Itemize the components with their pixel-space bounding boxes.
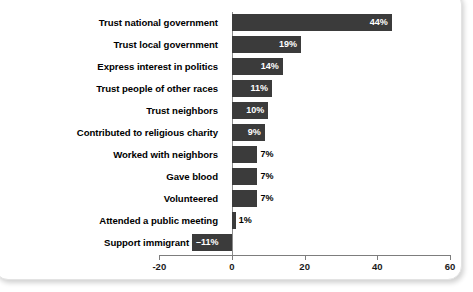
category-label: Support immigrant rights	[0, 232, 218, 254]
category-label: Trust local government	[0, 34, 218, 56]
x-tick-label: 40	[357, 261, 397, 272]
chart-figure: Trust national government44%Trust local …	[0, 0, 473, 292]
category-label: Gave blood	[0, 166, 218, 188]
category-label: Trust national government	[0, 12, 218, 34]
category-label: Trust neighbors	[0, 100, 218, 122]
bar-value-label: –11%	[196, 234, 228, 251]
x-tick	[377, 255, 378, 260]
bar-value-label: 9%	[241, 124, 261, 141]
bar-value-label: 7%	[260, 190, 273, 207]
bar[interactable]	[232, 212, 236, 229]
bar[interactable]	[232, 146, 257, 163]
x-tick	[159, 255, 160, 260]
category-label: Volunteered	[0, 188, 218, 210]
bar-value-label: 7%	[260, 168, 273, 185]
x-tick-label: 20	[285, 261, 325, 272]
bar-value-label: 10%	[244, 102, 264, 119]
bar-value-label: 44%	[368, 14, 388, 31]
x-tick	[232, 255, 233, 260]
category-label: Express interest in politics	[0, 56, 218, 78]
category-label: Worked with neighbors	[0, 144, 218, 166]
x-axis-line	[232, 255, 450, 256]
bar-value-label: 7%	[260, 146, 273, 163]
bar-value-label: 14%	[259, 58, 279, 75]
x-tick	[305, 255, 306, 260]
x-tick-label: 60	[430, 261, 470, 272]
bar-row: Gave blood7%	[0, 166, 473, 188]
bar-row: Worked with neighbors7%	[0, 144, 473, 166]
category-label: Trust people of other races	[0, 78, 218, 100]
bar-value-label: 1%	[239, 212, 252, 229]
category-label: Contributed to religious charity	[0, 122, 218, 144]
bar-row: Attended a public meeting1%	[0, 210, 473, 232]
plot-area: Trust national government44%Trust local …	[0, 0, 473, 292]
x-tick	[450, 255, 451, 260]
x-tick-label: -20	[139, 261, 179, 272]
bar-row: Contributed to religious charity9%	[0, 122, 473, 144]
bar-row: Trust people of other races11%	[0, 78, 473, 100]
bar-value-label: 19%	[277, 36, 297, 53]
bar-row: Trust local government19%	[0, 34, 473, 56]
bar-value-label: 11%	[248, 80, 268, 97]
bar-row: Support immigrant rights–11%	[0, 232, 473, 254]
category-label: Attended a public meeting	[0, 210, 218, 232]
bar-row: Volunteered7%	[0, 188, 473, 210]
bar[interactable]	[232, 168, 257, 185]
bar-row: Trust neighbors10%	[0, 100, 473, 122]
x-axis-line-negative	[159, 255, 232, 256]
bar-row: Trust national government44%	[0, 12, 473, 34]
bar[interactable]	[232, 190, 257, 207]
bar-row: Express interest in politics14%	[0, 56, 473, 78]
x-tick-label: 0	[212, 261, 252, 272]
